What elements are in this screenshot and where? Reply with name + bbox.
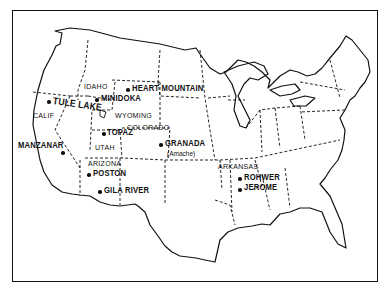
camp-dot-granada xyxy=(159,143,163,147)
state-label-idaho: IDAHO xyxy=(84,83,108,90)
state-label-arkansas: ARKANSAS xyxy=(218,163,259,170)
camp-dot-poston xyxy=(87,173,91,177)
state-label-arizona: ARIZONA xyxy=(88,160,121,167)
camp-label-granada: GRANADA xyxy=(165,139,205,148)
state-label-wyoming: WYOMING xyxy=(115,112,152,119)
camp-label-gila-river: GILA RIVER xyxy=(104,186,149,195)
state-label-utah: UTAH xyxy=(95,144,115,151)
camp-dot-manzanar xyxy=(61,151,65,155)
camp-dot-heart-mountain xyxy=(126,88,130,92)
camp-label-jerome: JEROME xyxy=(244,183,277,192)
camp-dot-tule-lake xyxy=(47,100,51,104)
state-label-calif: CALIF xyxy=(33,112,54,119)
camp-label-amache: (Amache) xyxy=(167,151,195,158)
camp-label-rohwer: ROHWER xyxy=(244,173,280,182)
camp-dot-jerome xyxy=(238,188,242,192)
camp-dot-gila-river xyxy=(98,190,102,194)
camp-label-poston: POSTON xyxy=(93,169,126,178)
camp-dot-rohwer xyxy=(238,177,242,181)
camp-dot-topaz xyxy=(102,132,106,136)
camp-label-manzanar: MANZANAR xyxy=(18,141,64,150)
camp-label-minidoka: MINIDOKA xyxy=(101,94,141,103)
camp-label-heart-mountain: HEART MOUNTAIN xyxy=(132,84,204,93)
state-label-colorado: COLORADO xyxy=(127,124,169,131)
